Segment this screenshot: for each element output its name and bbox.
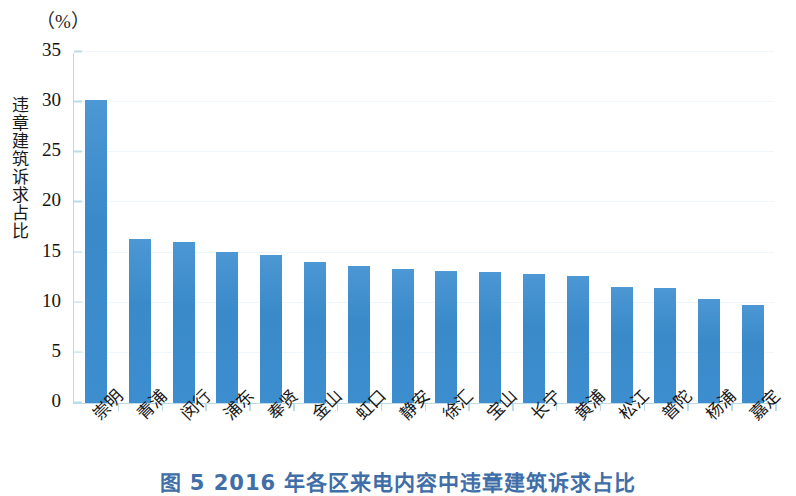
bar-slot xyxy=(293,53,337,403)
bar[interactable] xyxy=(654,288,676,403)
bar[interactable] xyxy=(392,269,414,403)
bar-slot xyxy=(512,53,556,403)
bar[interactable] xyxy=(129,239,151,403)
y-tick-label: 15 xyxy=(42,240,61,260)
y-tick-label: 20 xyxy=(42,190,61,210)
bar[interactable] xyxy=(523,274,545,403)
bar-slot xyxy=(556,53,600,403)
plot-area: 05101520253035 xyxy=(73,53,774,404)
bar-slot xyxy=(381,53,425,403)
bar[interactable] xyxy=(216,252,238,403)
bar[interactable] xyxy=(479,272,501,403)
y-tick-label: 10 xyxy=(42,290,61,310)
bar-slot xyxy=(205,53,249,403)
bar[interactable] xyxy=(173,242,195,403)
bar-slot xyxy=(74,53,118,403)
bar-slot xyxy=(731,53,775,403)
gridline xyxy=(74,51,774,52)
bar-slot xyxy=(162,53,206,403)
bar-slot xyxy=(425,53,469,403)
bar-slot xyxy=(687,53,731,403)
y-tick-label: 0 xyxy=(52,391,62,411)
y-axis-unit-label: （%） xyxy=(36,6,90,33)
y-tick-label: 5 xyxy=(52,340,62,360)
bar-slot xyxy=(118,53,162,403)
bar[interactable] xyxy=(611,287,633,403)
y-tick-label: 35 xyxy=(42,40,61,60)
y-axis-title: 违章建筑诉求占比 xyxy=(2,96,28,240)
bar[interactable] xyxy=(698,299,720,403)
bar[interactable] xyxy=(435,271,457,403)
figure-caption: 图 5 2016 年各区来电内容中违章建筑诉求占比 xyxy=(0,466,796,496)
bar[interactable] xyxy=(348,266,370,403)
bar[interactable] xyxy=(85,100,107,403)
y-tick-label: 25 xyxy=(42,140,61,160)
bar-slot xyxy=(600,53,644,403)
y-tick-mark xyxy=(74,51,82,53)
y-tick-label: 30 xyxy=(42,90,61,110)
bar-slot xyxy=(644,53,688,403)
bar-slot xyxy=(468,53,512,403)
bar-slot xyxy=(249,53,293,403)
bar[interactable] xyxy=(304,262,326,403)
bar-slot xyxy=(337,53,381,403)
bar[interactable] xyxy=(260,255,282,403)
bar[interactable] xyxy=(567,276,589,403)
bar[interactable] xyxy=(742,305,764,403)
